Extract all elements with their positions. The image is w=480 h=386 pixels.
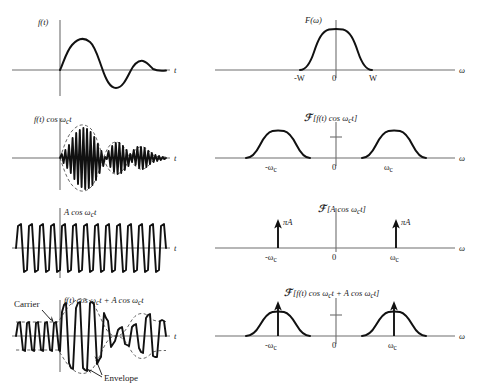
tick-label-wc: ωc [390, 252, 400, 264]
tick-label-zero: 0 [332, 340, 336, 350]
tick-label-minus-wc: -ωc [265, 340, 277, 352]
panel-carrier-spectrum: πA πA ℱ [A cos ωct] ω -ωc 0 ωc [215, 203, 465, 264]
axis-label-t: t [174, 331, 177, 341]
tick-label-wc: ωc [384, 162, 394, 174]
tick-label-minus-wc: -ωc [265, 162, 277, 174]
am-impulse-positive [390, 301, 398, 336]
panel-label-ft: f(t) [38, 17, 49, 27]
panel-am-spectrum: ℱ [f(t) cos ωct + A cos ωct] ω -ωc 0 ωc [215, 287, 465, 352]
axis-label-t: t [174, 243, 177, 253]
panel-baseband-spectrum: F(ω) ω -W 0 W [215, 15, 465, 83]
axis-label-t: t [174, 153, 177, 163]
spectrum-bell-negative [246, 131, 310, 158]
panel-am-signal: f(t) cos ωct + A cos ωct t Carrier Envel… [12, 295, 177, 383]
impulse-weight-positive: πA [401, 217, 411, 227]
panel-label-am: f(t) cos ωct + A cos ωct [64, 295, 144, 307]
envelope-annotation-label: Envelope [104, 373, 138, 383]
panel-label-carrier-spectrum: [A cos ωct] [327, 204, 366, 216]
axis-label-omega: ω [459, 153, 465, 163]
axis-label-t: t [174, 65, 177, 75]
envelope-leader-line-2 [96, 360, 102, 375]
carrier-leader-line [42, 310, 51, 320]
panel-carrier-signal: A cos ωct t [12, 207, 177, 278]
impulse-positive [392, 219, 400, 248]
carrier-annotation-label: Carrier [14, 299, 39, 309]
panel-label-carrier: A cos ωct [63, 207, 97, 219]
impulse-weight-negative: πA [283, 217, 293, 227]
tick-label-zero: 0 [332, 73, 336, 83]
tick-label-minus-w: -W [294, 73, 305, 83]
spectrum-bell-positive [362, 131, 426, 158]
panel-dsb-sc-spectrum: ℱ [f(t) cos ωct] ω -ωc 0 ωc [215, 112, 465, 174]
tick-label-minus-wc: -ωc [265, 252, 277, 264]
tick-label-zero: 0 [332, 252, 336, 262]
panel-baseband-signal: f(t) t [12, 17, 177, 96]
modulated-waveform [60, 128, 166, 189]
am-impulse-negative [274, 301, 282, 336]
panel-label-dsb: f(t) cos ωct [34, 114, 72, 126]
axis-label-omega: ω [459, 65, 465, 75]
tick-label-w: W [369, 73, 377, 83]
impulse-negative [274, 219, 282, 248]
panel-label-dsb-spectrum: [f(t) cos ωct] [313, 113, 357, 125]
axis-label-omega: ω [459, 331, 465, 341]
tick-label-wc: ωc [388, 340, 398, 352]
panel-dsb-sc-signal: f(t) cos ωct t [12, 114, 177, 191]
panel-label-fw: F(ω) [304, 15, 322, 25]
tick-label-zero: 0 [332, 162, 336, 172]
axis-label-omega: ω [459, 243, 465, 253]
am-figure: f(t) t F(ω) ω -W 0 W f(t) cos ωct t ℱ [f… [0, 0, 480, 386]
baseband-waveform [60, 39, 166, 88]
